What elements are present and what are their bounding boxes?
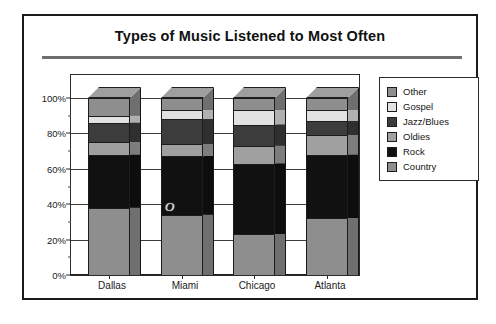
legend-label: Country	[403, 162, 436, 172]
y-tick-100	[66, 98, 71, 99]
bar-segment-jazz-blues[interactable]	[161, 119, 203, 144]
bar-side-face	[203, 87, 214, 275]
x-axis-label-dallas: Dallas	[98, 280, 126, 291]
y-tick-minor-50	[68, 186, 71, 187]
y-axis-label: 20%	[47, 234, 66, 245]
y-axis-label: 100%	[42, 93, 66, 104]
legend-swatch-icon	[387, 147, 397, 157]
bar-side-face	[275, 87, 286, 275]
bar-top-face	[233, 87, 286, 98]
bar-segment-other[interactable]	[88, 98, 130, 116]
bar-side-segment	[275, 153, 286, 235]
bar-side-face	[130, 87, 141, 275]
bar-segment-gospel[interactable]	[233, 110, 275, 124]
bar-segment-other[interactable]	[161, 98, 203, 110]
x-tick-chicago	[254, 275, 255, 279]
bar-segment-country[interactable]	[161, 215, 203, 275]
bar-front-face	[161, 98, 203, 275]
legend-label: Gospel	[403, 102, 433, 112]
bar-segment-rock[interactable]	[306, 155, 348, 219]
bar-segment-jazz-blues[interactable]	[233, 125, 275, 146]
bar-segment-oldies[interactable]	[233, 146, 275, 164]
x-tick-atlanta	[327, 275, 328, 279]
bar-group-chicago[interactable]	[233, 98, 275, 275]
legend-label: Jazz/Blues	[403, 117, 449, 127]
y-tick-minor-70	[68, 151, 71, 152]
bar-segment-country[interactable]	[306, 218, 348, 275]
bar-segment-country[interactable]	[233, 234, 275, 275]
bar-segment-other[interactable]	[306, 98, 348, 110]
legend-swatch-icon	[387, 102, 397, 112]
bar-segment-oldies[interactable]	[306, 135, 348, 154]
bar-side-segment	[348, 144, 359, 219]
bar-side-segment	[130, 197, 141, 275]
y-tick-20	[66, 239, 71, 240]
legend-item-gospel[interactable]: Gospel	[387, 99, 472, 114]
bar-side-face	[348, 87, 359, 275]
x-axis-label-miami: Miami	[172, 280, 199, 291]
plot-area: 0%20%40%60%80%100%O	[70, 74, 360, 276]
bar-top-shape	[306, 87, 359, 98]
y-axis-label: 80%	[47, 128, 66, 139]
chart-legend: OtherGospelJazz/BluesOldiesRockCountry	[379, 77, 479, 181]
legend-item-oldies[interactable]: Oldies	[387, 129, 472, 144]
legend-swatch-icon	[387, 117, 397, 127]
bar-segment-country[interactable]	[88, 208, 130, 275]
y-tick-minor-30	[68, 221, 71, 222]
bar-segment-oldies[interactable]	[161, 144, 203, 156]
bar-segment-gospel[interactable]	[88, 116, 130, 123]
y-tick-minor-10	[68, 257, 71, 258]
legend-label: Other	[403, 87, 427, 97]
bar-segment-rock[interactable]	[233, 164, 275, 235]
y-tick-80	[66, 133, 71, 134]
y-tick-60	[66, 168, 71, 169]
bar-segment-jazz-blues[interactable]	[88, 123, 130, 142]
x-tick-miami	[182, 275, 183, 279]
legend-swatch-icon	[387, 132, 397, 142]
bar-segment-other[interactable]	[233, 98, 275, 110]
bar-top-shape	[161, 87, 214, 98]
y-tick-40	[66, 204, 71, 205]
bar-segment-oldies[interactable]	[88, 142, 130, 154]
bar-top-face	[161, 87, 214, 98]
y-axis-label: 40%	[47, 199, 66, 210]
y-tick-minor-90	[68, 115, 71, 116]
bar-front-face	[88, 98, 130, 275]
legend-item-other[interactable]: Other	[387, 84, 472, 99]
legend-item-jazz-blues[interactable]: Jazz/Blues	[387, 114, 472, 129]
legend-item-country[interactable]: Country	[387, 159, 472, 174]
bar-group-atlanta[interactable]	[306, 98, 348, 275]
legend-label: Oldies	[403, 132, 430, 142]
legend-swatch-icon	[387, 162, 397, 172]
bar-top-face	[306, 87, 359, 98]
legend-swatch-icon	[387, 87, 397, 97]
bar-segment-rock[interactable]	[88, 155, 130, 208]
x-tick-dallas	[109, 275, 110, 279]
y-axis-label: 0%	[52, 270, 66, 281]
y-axis-label: 60%	[47, 163, 66, 174]
title-divider	[42, 56, 462, 59]
plot-inner: 0%20%40%60%80%100%O	[71, 98, 359, 275]
bar-top-shape	[233, 87, 286, 98]
bar-front-face	[233, 98, 275, 275]
x-axis-label-chicago: Chicago	[239, 280, 276, 291]
bar-segment-rock[interactable]	[161, 156, 203, 214]
page-title: Types of Music Listened to Most Often	[24, 28, 476, 44]
bar-group-miami[interactable]	[161, 98, 203, 275]
chart-frame: Types of Music Listened to Most Often 0%…	[22, 14, 478, 300]
bar-front-face	[306, 98, 348, 275]
bar-top-face	[88, 87, 141, 98]
legend-item-rock[interactable]: Rock	[387, 144, 472, 159]
bar-segment-jazz-blues[interactable]	[306, 121, 348, 135]
x-axis-label-atlanta: Atlanta	[314, 280, 345, 291]
bar-group-dallas[interactable]	[88, 98, 130, 275]
bar-segment-gospel[interactable]	[161, 110, 203, 119]
bar-segment-gospel[interactable]	[306, 110, 348, 121]
legend-label: Rock	[403, 147, 425, 157]
bar-top-shape	[88, 87, 141, 98]
